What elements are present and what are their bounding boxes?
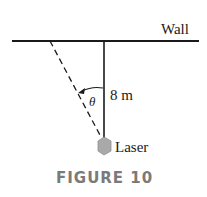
angle-label: θ [89, 94, 96, 109]
laser-label: Laser [115, 139, 148, 155]
laser-wall-diagram: Wall 8 m θ Laser FIGURE 10 [0, 0, 207, 197]
wall-label: Wall [161, 21, 189, 37]
laser-icon [98, 137, 111, 155]
angle-arc [82, 87, 103, 91]
laser-beam-dashed [50, 41, 101, 137]
angle-arrowhead-icon [78, 88, 85, 94]
figure-caption: FIGURE 10 [56, 169, 153, 187]
distance-label: 8 m [110, 87, 133, 103]
